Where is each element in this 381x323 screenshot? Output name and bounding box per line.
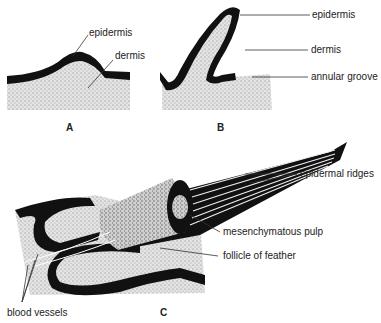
label-epidermal-ridges: epidermal ridges bbox=[300, 168, 374, 179]
feather-development-diagram: epidermis dermis A epidermis dermis annu… bbox=[0, 0, 381, 323]
label-epidermis-a: epidermis bbox=[89, 27, 132, 38]
label-blood-vessels: blood vessels bbox=[7, 307, 68, 318]
label-dermis-a: dermis bbox=[115, 50, 145, 61]
label-epidermis-b: epidermis bbox=[312, 9, 355, 20]
panel-a: epidermis dermis A bbox=[7, 27, 145, 133]
label-dermis-b: dermis bbox=[311, 44, 341, 55]
panel-letter-a: A bbox=[66, 122, 73, 133]
panel-c: epidermal ridges mesenchymatous pulp fol… bbox=[7, 142, 374, 318]
panel-letter-b: B bbox=[217, 122, 224, 133]
label-follicle: follicle of feather bbox=[223, 250, 296, 261]
dermis-a bbox=[7, 57, 130, 110]
panel-letter-c: C bbox=[160, 307, 167, 318]
label-mesenchymatous-pulp: mesenchymatous pulp bbox=[223, 226, 323, 237]
label-annular-groove: annular groove bbox=[311, 71, 378, 82]
panel-b: epidermis dermis annular groove B bbox=[160, 7, 378, 133]
